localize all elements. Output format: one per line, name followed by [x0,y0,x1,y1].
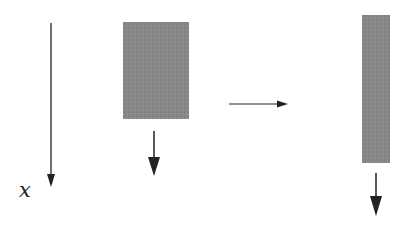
stretched-block [362,15,390,163]
x-axis-label: x [19,180,31,201]
diagram-svg [0,0,412,227]
diagram-canvas: x [0,0,412,227]
initial-block-down-arrow [148,131,160,176]
initial-block [123,22,189,119]
stretched-block-down-arrow [370,173,382,216]
x-axis-arrow [47,23,55,187]
arrow-down-icon [148,157,160,176]
arrow-down-icon [370,196,382,216]
transition-arrow [229,101,288,108]
arrow-right-icon [277,101,288,108]
x-axis-arrowhead-icon [47,174,55,187]
